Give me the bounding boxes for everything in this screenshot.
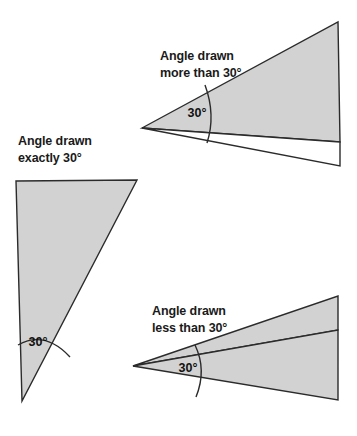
angle-value-label-less-than-30: 30° xyxy=(179,361,198,375)
caption-line1-less-than-30: Angle drawn xyxy=(152,304,226,318)
angle-value-label-exactly-30: 30° xyxy=(29,335,48,349)
caption-line2-exactly-30: exactly 30° xyxy=(18,151,82,165)
caption-line2-less-than-30: less than 30° xyxy=(152,321,227,335)
caption-line1-exactly-30: Angle drawn xyxy=(18,134,92,148)
angle-comparison-diagram: Angle drawn more than 30° 30° Angle draw… xyxy=(0,0,357,436)
caption-line1-more-than-30: Angle drawn xyxy=(160,49,234,63)
caption-line2-more-than-30: more than 30° xyxy=(160,66,242,80)
angle-value-label-more-than-30: 30° xyxy=(188,106,207,120)
